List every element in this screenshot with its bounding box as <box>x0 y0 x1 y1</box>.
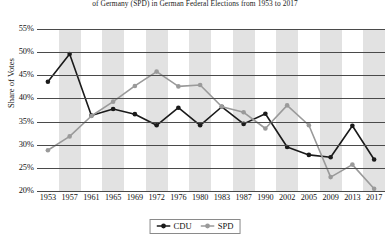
grid-line <box>37 52 385 53</box>
x-axis-tick-label: 2009 <box>320 193 342 202</box>
data-point <box>176 105 181 110</box>
data-point <box>46 79 51 84</box>
data-point <box>372 157 377 162</box>
series-line <box>48 72 374 189</box>
x-axis-tick-label: 1990 <box>255 193 277 202</box>
x-axis-ticks: 1953195719611965196919721976198019831987… <box>37 193 385 207</box>
grid-line <box>37 98 385 99</box>
data-point <box>198 123 203 128</box>
grid-line <box>37 145 385 146</box>
grid-line <box>37 168 385 169</box>
legend-marker-icon <box>157 222 171 230</box>
data-point <box>133 112 138 117</box>
y-axis-tick-label: 40% <box>0 93 34 102</box>
grid-line <box>37 29 385 30</box>
data-point <box>176 84 181 89</box>
legend-label: SPD <box>218 221 234 231</box>
x-axis-tick-label: 1957 <box>59 193 81 202</box>
y-axis-tick-label: 55% <box>0 24 34 33</box>
y-axis-tick-label: 45% <box>0 70 34 79</box>
data-point <box>350 123 355 128</box>
legend-item-spd[interactable]: SPD <box>201 221 234 231</box>
series-spd <box>46 69 377 191</box>
legend-marker-icon <box>201 222 215 230</box>
data-point <box>263 126 268 131</box>
series-line <box>48 54 374 160</box>
y-axis-tick-label: 20% <box>0 186 34 195</box>
x-axis-tick-label: 2017 <box>363 193 385 202</box>
x-axis-tick-label: 1980 <box>189 193 211 202</box>
y-axis-tick-label: 35% <box>0 117 34 126</box>
data-point <box>198 83 203 88</box>
data-point <box>89 114 94 119</box>
data-point <box>307 153 312 158</box>
plot-area <box>37 29 385 191</box>
data-point <box>46 148 51 153</box>
x-axis-tick-label: 1961 <box>81 193 103 202</box>
chart-legend: CDUSPD <box>150 219 241 234</box>
data-point <box>307 123 312 128</box>
data-point <box>133 84 138 89</box>
y-axis-tick-label: 25% <box>0 163 34 172</box>
grid-line <box>37 122 385 123</box>
x-axis-tick-label: 1965 <box>102 193 124 202</box>
x-axis-tick-label: 1976 <box>168 193 190 202</box>
data-point <box>241 110 246 115</box>
x-axis-tick-label: 2002 <box>276 193 298 202</box>
x-axis-tick-label: 1953 <box>37 193 59 202</box>
y-axis-tick-label: 30% <box>0 140 34 149</box>
y-axis-tick-label: 50% <box>0 47 34 56</box>
data-point <box>328 155 333 160</box>
x-axis-tick-label: 2013 <box>342 193 364 202</box>
data-point <box>67 134 72 139</box>
y-axis-ticks: 55%50%45%40%35%30%25%20% <box>0 29 34 191</box>
grid-line <box>37 75 385 76</box>
legend-label: CDU <box>174 221 192 231</box>
data-point <box>111 107 116 112</box>
data-point <box>285 103 290 108</box>
data-point <box>111 99 116 104</box>
legend-item-cdu[interactable]: CDU <box>157 221 192 231</box>
data-point <box>263 111 268 116</box>
x-axis-tick-label: 1969 <box>124 193 146 202</box>
data-point <box>154 123 159 128</box>
series-layer <box>37 29 385 191</box>
chart-container: of Germany (SPD) in German Federal Elect… <box>0 0 390 238</box>
x-axis-tick-label: 1972 <box>146 193 168 202</box>
chart-title: of Germany (SPD) in German Federal Elect… <box>0 0 390 8</box>
data-point <box>220 104 225 109</box>
x-axis-tick-label: 2005 <box>298 193 320 202</box>
data-point <box>350 162 355 167</box>
x-axis-tick-label: 1987 <box>233 193 255 202</box>
data-point <box>328 175 333 180</box>
x-axis-tick-label: 1983 <box>211 193 233 202</box>
grid-line <box>37 191 385 192</box>
data-point <box>154 69 159 74</box>
